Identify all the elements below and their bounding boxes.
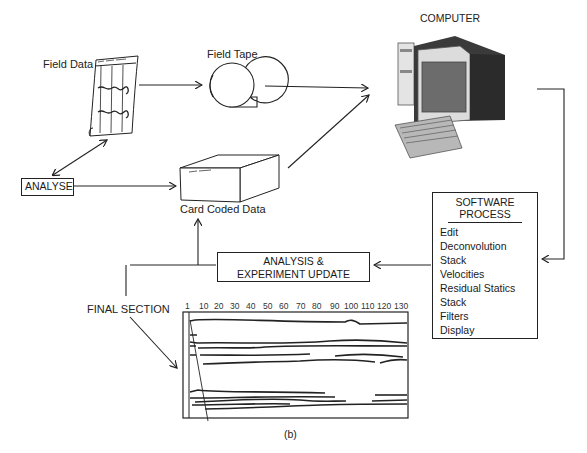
software-process-title-2: PROCESS <box>440 208 530 220</box>
field-tape-reel-icon <box>210 57 288 107</box>
figure-caption: (b) <box>284 428 297 440</box>
axis-tick: 30 <box>230 301 239 311</box>
step-residual-statics: Residual Statics <box>440 281 530 295</box>
axis-tick: 10 <box>199 301 208 311</box>
axis-tick: 110 <box>361 301 375 311</box>
final-section-plot <box>183 312 408 421</box>
title-divider <box>448 222 522 223</box>
analysis-update-line1: ANALYSIS & <box>218 255 369 268</box>
analysis-update-box: ANALYSIS & EXPERIMENT UPDATE <box>217 252 370 282</box>
computer-label: COMPUTER <box>420 12 480 24</box>
axis-tick: 1 <box>185 301 190 311</box>
axis-tick: 60 <box>279 301 288 311</box>
step-velocities: Velocities <box>440 267 530 281</box>
step-stack-2: Stack <box>440 295 530 309</box>
axis-tick: 120 <box>377 301 391 311</box>
axis-tick: 70 <box>296 301 305 311</box>
axis-tick: 80 <box>312 301 321 311</box>
step-filters: Filters <box>440 309 530 323</box>
axis-tick: 20 <box>214 301 223 311</box>
software-process-box: SOFTWARE PROCESS Edit Deconvolution Stac… <box>432 192 538 339</box>
axis-tick: 100 <box>344 301 358 311</box>
axis-tick: 40 <box>246 301 255 311</box>
analyse-label: ANALYSE <box>25 180 73 192</box>
axis-tick: 50 <box>263 301 272 311</box>
step-stack: Stack <box>440 253 530 267</box>
axis-tick: 130 <box>394 301 408 311</box>
software-process-title-1: SOFTWARE <box>440 196 530 208</box>
field-data-label: Field Data <box>43 58 93 70</box>
step-edit: Edit <box>440 225 530 239</box>
analyse-box: ANALYSE <box>21 178 74 196</box>
final-section-label: FINAL SECTION <box>87 303 170 315</box>
field-tape-label: Field Tape <box>207 48 258 60</box>
card-coded-data-label: Card Coded Data <box>180 203 266 215</box>
computer-icon <box>395 36 505 158</box>
analysis-update-line2: EXPERIMENT UPDATE <box>218 268 369 281</box>
field-data-paper-icon <box>89 56 138 136</box>
step-deconvolution: Deconvolution <box>440 239 530 253</box>
card-coded-data-box-icon <box>180 155 279 202</box>
axis-tick: 90 <box>330 301 339 311</box>
step-display: Display <box>440 323 530 337</box>
